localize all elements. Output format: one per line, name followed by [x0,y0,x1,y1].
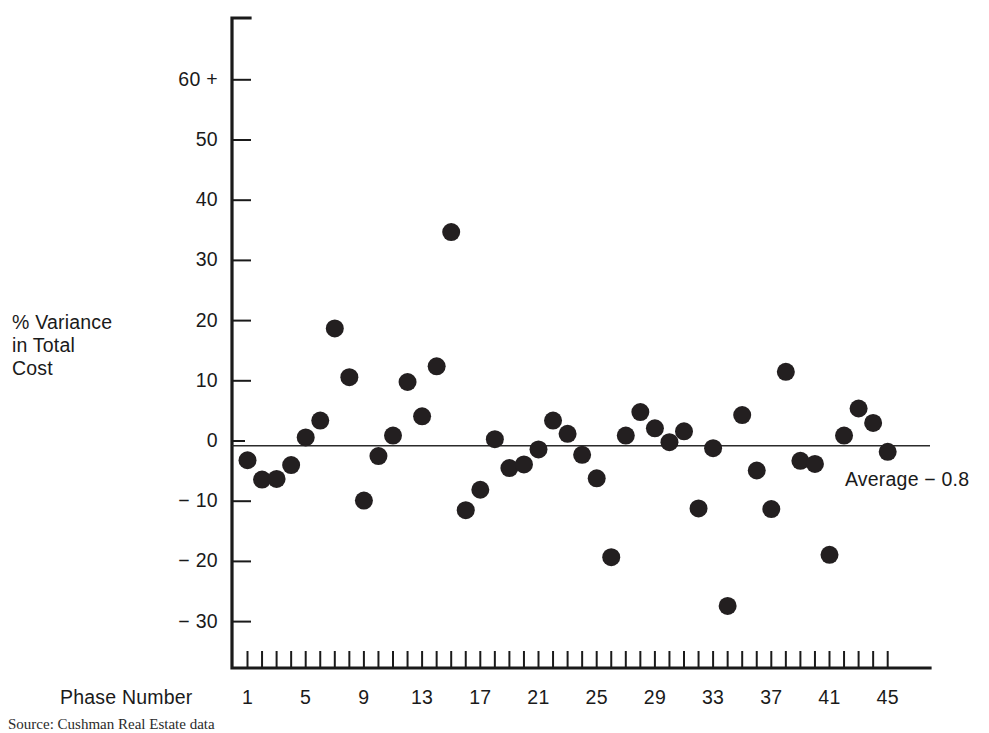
data-point [631,403,649,421]
data-point [471,481,489,499]
data-point [544,412,562,430]
data-point [777,363,795,381]
data-point [864,414,882,432]
data-point [340,368,358,386]
data-point-group [239,223,897,615]
data-point [850,399,868,417]
plot-area [0,0,989,733]
data-point [428,357,446,375]
data-point [559,425,577,443]
data-point [821,546,839,564]
data-point [515,455,533,473]
data-point [733,406,751,424]
data-point [369,447,387,465]
scatter-plot-figure: % Variance in Total Cost − 30− 20− 10010… [0,0,989,733]
data-point [268,470,286,488]
data-point [326,319,344,337]
data-point [719,597,737,615]
data-point [617,427,635,445]
data-point [588,469,606,487]
data-point [442,223,460,241]
data-point [457,501,475,519]
data-point [646,419,664,437]
data-point [675,422,693,440]
data-point [762,500,780,518]
data-point [282,456,300,474]
data-point [806,455,824,473]
data-point [311,412,329,430]
data-point [835,427,853,445]
data-point [486,430,504,448]
data-point [573,446,591,464]
data-point [384,427,402,445]
data-point [748,462,766,480]
data-point [239,451,257,469]
data-point [879,443,897,461]
axis-spines [232,18,930,668]
data-point [399,373,417,391]
data-point [690,499,708,517]
data-point [704,439,722,457]
data-point [660,433,678,451]
data-point [355,492,373,510]
data-point [602,548,620,566]
axes-group [232,18,930,668]
data-point [413,407,431,425]
data-point [297,428,315,446]
data-point [530,440,548,458]
